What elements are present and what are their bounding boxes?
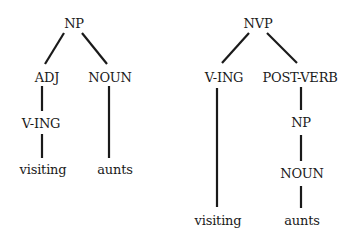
edge-nvp-postverb [267, 33, 297, 63]
node-np-root: NP [64, 17, 84, 30]
word-visiting: visiting [20, 163, 67, 176]
node-nvp-root: NVP [244, 17, 273, 30]
node-noun: NOUN [280, 167, 324, 180]
node-np: NP [291, 116, 311, 129]
edge-nvp-ving [222, 33, 249, 63]
node-ving: V-ING [205, 71, 243, 84]
node-post-verb: POST-VERB [262, 71, 337, 84]
word-aunts: aunts [97, 163, 132, 176]
edge-np-adj [45, 33, 64, 64]
node-ving: V-ING [22, 117, 60, 130]
word-aunts: aunts [284, 214, 319, 227]
node-adj: ADJ [35, 71, 59, 84]
word-visiting: visiting [195, 214, 242, 227]
edge-np-noun [82, 33, 107, 64]
node-noun: NOUN [88, 71, 132, 84]
